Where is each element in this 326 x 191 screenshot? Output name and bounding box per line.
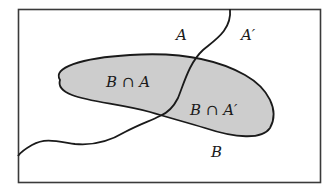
venn-diagram: A A′ B ∩ A B ∩ A′ B [0,0,326,191]
label-set-a-complement: A′ [239,26,256,44]
label-set-b: B [210,143,222,161]
label-set-a: A [174,26,187,44]
label-b-intersect-a: B ∩ A [105,73,150,91]
label-b-intersect-a-complement: B ∩ A′ [189,101,238,119]
